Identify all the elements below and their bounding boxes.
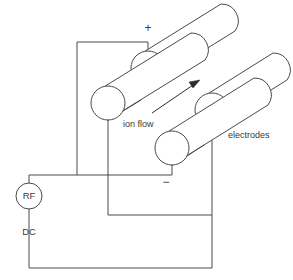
rod-left-middle-cap (91, 86, 125, 120)
rod-left-middle (91, 33, 208, 120)
ion-flow-label: ion flow (123, 119, 154, 129)
dc-label: DC (22, 226, 36, 237)
quadrupole-diagram: RF DC + − ion flow electrodes (0, 0, 293, 280)
diagram-canvas: RF DC + − ion flow electrodes (0, 0, 293, 280)
wire-dc-return (29, 209, 212, 268)
rf-label: RF (23, 190, 36, 201)
rod-bottom-negative-cap (155, 131, 189, 165)
positive-polarity-label: + (144, 21, 151, 35)
negative-polarity-label: − (162, 175, 169, 189)
electrodes-label: electrodes (228, 130, 270, 140)
